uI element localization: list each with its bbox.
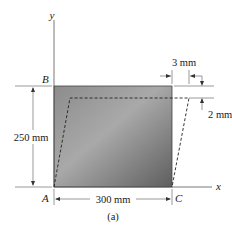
point-b-label: B	[42, 73, 49, 85]
point-a-label: A	[41, 192, 49, 204]
height-dimension-label: 250 mm	[14, 132, 49, 143]
arrow-down-icon	[31, 181, 35, 186]
point-c-label: C	[175, 192, 183, 204]
arrow-right-icon	[166, 197, 171, 201]
horizontal-displacement-label: 3 mm	[172, 57, 196, 68]
arrow-up-icon	[31, 87, 35, 92]
arrow-down-icon	[200, 81, 204, 86]
x-axis-label: x	[215, 180, 221, 192]
arrow-right-icon	[166, 74, 171, 78]
deformation-diagram: y x B A C 250 mm 300 mm 3 mm 2 mm (a)	[0, 0, 232, 233]
arrow-up-icon	[200, 98, 204, 103]
width-dimension-label: 300 mm	[96, 194, 131, 205]
arrow-left-icon	[55, 197, 60, 201]
vertical-displacement-label: 2 mm	[208, 109, 232, 120]
arrow-left-icon	[190, 74, 195, 78]
plate	[54, 86, 172, 187]
y-axis-label: y	[49, 9, 55, 21]
figure-caption: (a)	[107, 211, 119, 223]
